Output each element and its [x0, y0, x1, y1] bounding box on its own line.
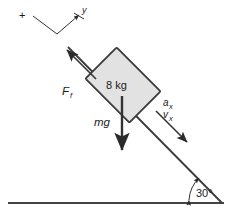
axis-indicator-polyline — [33, 15, 79, 34]
velocity-label: v x — [163, 109, 173, 123]
friction-force-subscript: f — [70, 91, 73, 100]
diagram-canvas: + y 8 kg F f mg a x v x 30° — [0, 0, 232, 214]
axis-y-label: y — [81, 5, 87, 15]
acceleration-subscript: x — [168, 102, 173, 111]
incline-line — [68, 47, 222, 203]
axis-indicator — [33, 13, 84, 34]
friction-force-symbol: F — [62, 85, 70, 97]
angle-label: 30° — [196, 187, 213, 199]
block-mass-label: 8 kg — [106, 79, 127, 91]
velocity-subscript: x — [168, 114, 173, 123]
weight-force-label: mg — [94, 116, 111, 128]
axis-positive-label: + — [19, 9, 25, 21]
friction-force-label: F f — [62, 85, 73, 100]
physics-diagram: + y 8 kg F f mg a x v x 30° — [0, 0, 232, 214]
friction-force-vector — [67, 50, 96, 79]
